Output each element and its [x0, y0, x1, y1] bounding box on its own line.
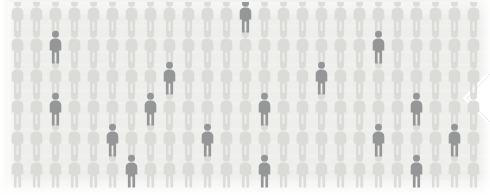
person-icon — [466, 2, 481, 33]
person-icon — [162, 154, 177, 188]
person-icon — [295, 123, 310, 157]
person-icon — [105, 61, 120, 95]
person-icon — [428, 92, 443, 126]
person-icon — [428, 154, 443, 188]
person-icon — [466, 123, 481, 157]
person-icon — [48, 2, 63, 33]
person-icon — [333, 61, 348, 95]
person-icon — [105, 2, 120, 33]
person-icon — [333, 92, 348, 126]
person-icon — [257, 30, 272, 64]
person-icon — [219, 2, 234, 33]
person-icon — [67, 61, 82, 95]
person-icon — [257, 123, 272, 157]
person-icon — [86, 154, 101, 188]
person-icon — [181, 154, 196, 188]
person-icon-highlighted — [447, 123, 462, 157]
person-icon — [10, 123, 25, 157]
person-icon — [447, 61, 462, 95]
pictogram-grid — [8, 2, 490, 195]
person-icon — [371, 61, 386, 95]
person-icon — [124, 61, 139, 95]
person-icon — [390, 123, 405, 157]
person-icon — [428, 123, 443, 157]
person-icon — [48, 154, 63, 188]
person-icon — [276, 123, 291, 157]
person-icon — [124, 2, 139, 33]
person-icon — [390, 61, 405, 95]
person-icon — [200, 92, 215, 126]
person-icon — [314, 154, 329, 188]
person-icon-highlighted — [257, 154, 272, 188]
person-icon — [10, 61, 25, 95]
person-icon — [409, 2, 424, 33]
person-icon — [466, 154, 481, 188]
person-icon — [124, 30, 139, 64]
person-icon — [10, 154, 25, 188]
person-icon — [29, 154, 44, 188]
person-icon — [352, 61, 367, 95]
person-icon — [162, 92, 177, 126]
person-icon — [67, 30, 82, 64]
person-icon — [371, 154, 386, 188]
person-icon — [86, 92, 101, 126]
person-icon — [162, 123, 177, 157]
person-icon — [86, 123, 101, 157]
person-icon — [86, 61, 101, 95]
person-icon — [219, 92, 234, 126]
person-icon — [238, 61, 253, 95]
person-icon — [105, 92, 120, 126]
person-icon-highlighted — [48, 92, 63, 126]
person-icon-highlighted — [105, 123, 120, 157]
person-icon — [86, 2, 101, 33]
person-icon — [314, 30, 329, 64]
person-icon — [181, 2, 196, 33]
person-icon-highlighted — [371, 123, 386, 157]
person-icon — [105, 154, 120, 188]
person-icon — [200, 61, 215, 95]
person-icon — [447, 2, 462, 33]
person-icon — [276, 2, 291, 33]
person-icon — [48, 61, 63, 95]
person-icon — [143, 154, 158, 188]
person-icon — [276, 92, 291, 126]
person-icon — [390, 2, 405, 33]
person-icon — [10, 30, 25, 64]
person-icon — [295, 2, 310, 33]
person-icon — [124, 92, 139, 126]
person-icon — [390, 92, 405, 126]
person-icon — [238, 30, 253, 64]
person-icon — [219, 154, 234, 188]
person-icon-highlighted — [409, 92, 424, 126]
person-icon — [428, 2, 443, 33]
person-icon-highlighted — [257, 92, 272, 126]
person-icon — [29, 30, 44, 64]
person-icon — [295, 30, 310, 64]
person-icon — [257, 61, 272, 95]
person-icon — [390, 30, 405, 64]
person-icon — [181, 61, 196, 95]
person-icon-highlighted — [371, 30, 386, 64]
person-icon — [181, 92, 196, 126]
crowd-panel — [8, 2, 490, 195]
person-icon — [257, 2, 272, 33]
person-icon — [276, 30, 291, 64]
person-icon — [409, 30, 424, 64]
person-icon — [333, 154, 348, 188]
person-icon-highlighted — [143, 92, 158, 126]
person-icon — [295, 92, 310, 126]
person-icon — [181, 123, 196, 157]
person-icon — [333, 123, 348, 157]
person-icon — [10, 2, 25, 33]
person-icon — [67, 123, 82, 157]
person-icon — [352, 2, 367, 33]
person-icon-highlighted — [162, 61, 177, 95]
person-icon — [333, 2, 348, 33]
person-icon — [238, 92, 253, 126]
person-icon — [371, 92, 386, 126]
person-icon — [105, 30, 120, 64]
person-icon — [390, 154, 405, 188]
person-icon — [352, 154, 367, 188]
person-icon — [219, 30, 234, 64]
person-icon-highlighted — [238, 2, 253, 33]
